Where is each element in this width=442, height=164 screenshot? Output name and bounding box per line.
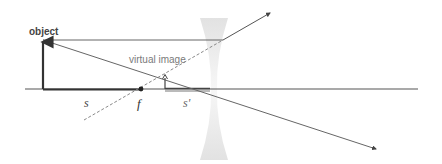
- virtual-ray-extension: [84, 40, 223, 120]
- focal-length-label: f: [137, 96, 143, 111]
- focal-point-dot: [139, 87, 144, 92]
- virtual-image-arrow: [163, 75, 168, 90]
- image-distance-label: s': [183, 96, 191, 110]
- diverging-lens-ray-diagram: object virtual image s f s': [0, 0, 442, 164]
- object-distance-label: s: [84, 96, 89, 110]
- lens-upper-half: [200, 18, 228, 89]
- virtual-image-label: virtual image: [129, 54, 186, 65]
- object-label: object: [29, 26, 59, 37]
- diverging-ray: [223, 13, 270, 40]
- image-distance-bar: [165, 89, 210, 92]
